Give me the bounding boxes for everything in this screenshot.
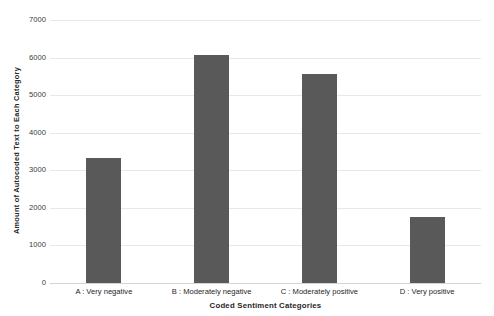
x-axis-tick-label: A : Very negative bbox=[50, 287, 158, 296]
bar[interactable] bbox=[302, 74, 337, 283]
y-axis-tick-label: 5000 bbox=[0, 91, 46, 99]
y-axis-tick-label: 6000 bbox=[0, 54, 46, 62]
x-axis-tick-label: B : Moderately negative bbox=[158, 287, 266, 296]
y-axis-tick-label: 7000 bbox=[0, 16, 46, 24]
x-axis-tick-label: C : Moderately positive bbox=[266, 287, 374, 296]
y-axis-tick-label: 2000 bbox=[0, 204, 46, 212]
x-axis-tick-labels: A : Very negativeB : Moderately negative… bbox=[50, 287, 481, 301]
bar-chart: Amount of Autocoded Text to Each Categor… bbox=[0, 0, 494, 316]
bar[interactable] bbox=[194, 55, 229, 283]
y-axis-tick-label: 3000 bbox=[0, 166, 46, 174]
y-axis-tick-label: 4000 bbox=[0, 129, 46, 137]
x-axis-title: Coded Sentiment Categories bbox=[50, 301, 481, 310]
bar[interactable] bbox=[410, 217, 445, 283]
plot-area bbox=[50, 20, 481, 283]
bar-series bbox=[50, 20, 481, 283]
y-axis-tick-labels: 01000200030004000500060007000 bbox=[0, 0, 46, 316]
x-axis-tick-label: D : Very positive bbox=[373, 287, 481, 296]
y-axis-tick-label: 1000 bbox=[0, 241, 46, 249]
y-axis-tick-label: 0 bbox=[0, 279, 46, 287]
bar[interactable] bbox=[86, 158, 121, 283]
gridline bbox=[50, 283, 481, 284]
